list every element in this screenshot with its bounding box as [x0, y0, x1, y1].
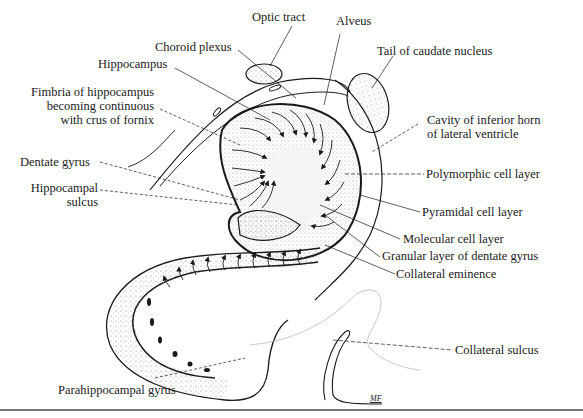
label-granular-layer: Granular layer of dentate gyrus [382, 249, 538, 263]
label-choroid-plexus: Choroid plexus [155, 40, 232, 54]
label-cavity-line1: Cavity of inferior horn [427, 113, 541, 127]
label-optic-tract: Optic tract [252, 10, 305, 24]
artist-signature: MF [370, 394, 382, 403]
label-fimbria-line1: Fimbria of hippocampus [14, 85, 154, 99]
label-cavity-inferior-horn: Cavity of inferior horn of lateral ventr… [427, 113, 541, 141]
bottom-rule [0, 409, 583, 411]
label-hippocampal-sulcus-line1: Hippocampal [20, 181, 98, 195]
label-collateral-sulcus: Collateral sulcus [455, 343, 539, 357]
label-polymorphic-cell-layer: Polymorphic cell layer [426, 167, 540, 181]
label-hippocampus: Hippocampus [98, 57, 167, 71]
hippocampus-diagram: Optic tract Alveus Choroid plexus Tail o… [0, 0, 583, 418]
label-dentate-gyrus: Dentate gyrus [20, 155, 90, 169]
label-fimbria-line2: becoming continuous [14, 99, 154, 113]
label-fimbria-line3: with crus of fornix [14, 113, 154, 127]
label-fimbria: Fimbria of hippocampus becoming continuo… [14, 85, 154, 127]
label-pyramidal-cell-layer: Pyramidal cell layer [422, 205, 523, 219]
label-collateral-eminence: Collateral eminence [396, 267, 496, 281]
label-alveus: Alveus [336, 14, 371, 28]
label-hippocampal-sulcus-line2: sulcus [20, 195, 98, 209]
label-molecular-cell-layer: Molecular cell layer [403, 232, 504, 246]
label-hippocampal-sulcus: Hippocampal sulcus [20, 181, 98, 209]
label-tail-caudate-nucleus: Tail of caudate nucleus [377, 44, 492, 58]
label-cavity-line2: of lateral ventricle [427, 127, 541, 141]
label-parahippocampal-gyrus: Parahippocampal gyrus [58, 383, 176, 397]
